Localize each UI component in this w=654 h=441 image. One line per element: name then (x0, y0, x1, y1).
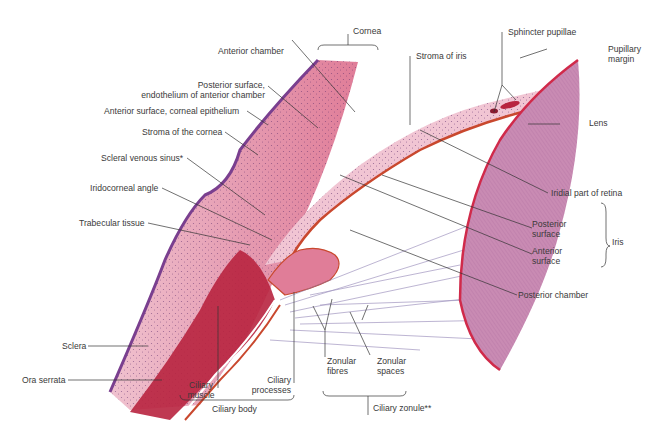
label-zonular-fibres-line2: fibres (327, 366, 356, 376)
label-iris-posterior-line2: surface (532, 229, 566, 239)
label-ora-serrata: Ora serrata (22, 375, 65, 385)
label-lens: Lens (589, 118, 608, 128)
label-posterior-surface-line1: Posterior surface, (130, 80, 265, 90)
label-sclera: Sclera (62, 341, 86, 351)
label-ciliary-processes-line1: Ciliary (246, 375, 291, 385)
label-anterior-surface-epithelium: Anterior surface, corneal epithelium (104, 106, 239, 116)
label-iris-posterior-line1: Posterior (532, 219, 566, 229)
label-pupillary-margin-line2: margin (608, 54, 641, 64)
label-zonular-spaces-line1: Zonular (377, 356, 406, 366)
label-zonular-spaces: Zonular spaces (377, 356, 406, 376)
label-cornea: Cornea (353, 26, 381, 36)
label-iridial-part-retina: Iridial part of retina (551, 188, 622, 198)
label-posterior-chamber: Posterior chamber (518, 290, 588, 300)
label-posterior-surface: Posterior surface, endothelium of anteri… (130, 80, 265, 100)
label-stroma-cornea: Stroma of the cornea (142, 127, 222, 137)
label-zonular-fibres: Zonular fibres (327, 356, 356, 376)
label-zonular-fibres-line1: Zonular (327, 356, 356, 366)
label-iris-anterior-line2: surface (532, 256, 562, 266)
label-stroma-iris: Stroma of iris (416, 51, 467, 61)
label-iris-anterior-surface: Anterior surface (532, 246, 562, 266)
label-pupillary-margin-line1: Pupillary (608, 44, 641, 54)
label-iris-anterior-line1: Anterior (532, 246, 562, 256)
label-ciliary-processes: Ciliary processes (246, 375, 291, 395)
label-ciliary-zonule: Ciliary zonule** (373, 403, 431, 413)
label-ciliary-muscle: Ciliary muscle (186, 380, 216, 400)
label-ciliary-muscle-line2: muscle (186, 390, 216, 400)
label-pupillary-margin: Pupillary margin (608, 44, 641, 64)
label-iris-posterior-surface: Posterior surface (532, 219, 566, 239)
label-sphincter-pupillae: Sphincter pupillae (508, 27, 576, 37)
label-ciliary-body: Ciliary body (212, 404, 257, 414)
label-iridocorneal-angle: Iridocorneal angle (90, 183, 158, 193)
label-anterior-chamber: Anterior chamber (218, 46, 284, 56)
label-zonular-spaces-line2: spaces (377, 366, 406, 376)
label-iris: Iris (612, 237, 623, 247)
label-scleral-venous-sinus: Scleral venous sinus* (101, 153, 183, 163)
label-ciliary-processes-line2: processes (246, 385, 291, 395)
label-posterior-surface-line2: endothelium of anterior chamber (130, 90, 265, 100)
label-ciliary-muscle-line1: Ciliary (186, 380, 216, 390)
label-trabecular-tissue: Trabecular tissue (79, 218, 145, 228)
